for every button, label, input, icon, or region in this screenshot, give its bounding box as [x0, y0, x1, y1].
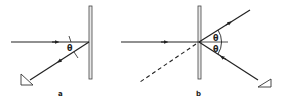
panel-label-a: a: [58, 90, 63, 98]
reflection-diagram: θ a θ θ b: [0, 0, 287, 104]
detector-b: [258, 79, 271, 87]
theta-label-a: θ: [67, 44, 73, 53]
reflected-ray-b-up: [199, 10, 250, 42]
mirror-a: [89, 6, 92, 79]
panel-b: θ θ b: [121, 6, 271, 98]
panel-a: θ a: [11, 6, 92, 98]
dashed-path-b: [140, 44, 196, 82]
angle-tick-a2: [74, 52, 78, 58]
angle-tick-a1: [69, 36, 71, 42]
theta-label-b1: θ: [213, 34, 219, 43]
reflected-ray-b-down: [199, 42, 258, 80]
theta-label-b2: θ: [213, 45, 219, 54]
panel-label-b: b: [196, 90, 201, 98]
